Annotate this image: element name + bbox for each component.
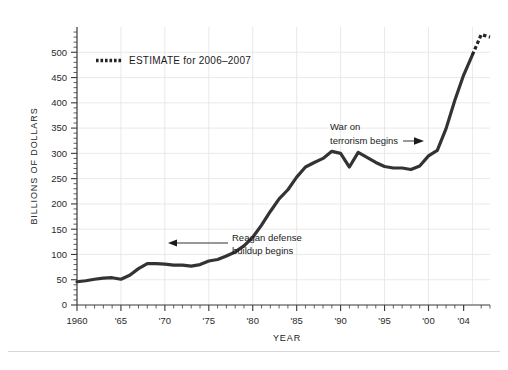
legend: ESTIMATE for 2006–2007: [96, 55, 251, 66]
y-tick-label: 450: [51, 72, 67, 83]
y-tick-label: 100: [51, 249, 67, 260]
war-arrowhead-icon: [414, 137, 424, 145]
x-tick-label: '70: [159, 315, 171, 326]
x-tick-label: '04: [457, 315, 469, 326]
y-axis-major-ticks: [71, 52, 77, 305]
footer-divider: [8, 351, 500, 352]
x-tick-label: '65: [115, 315, 127, 326]
defense-spending-chart-figure: 050100150200250300350400450500 1960'65'7…: [0, 0, 508, 370]
annotation-war-on-terrorism: War on terrorism begins: [330, 121, 424, 146]
y-tick-label: 0: [62, 299, 67, 310]
x-tick-label: '90: [334, 315, 346, 326]
y-axis-title: BILLIONS OF DOLLARS: [29, 107, 39, 224]
y-tick-label: 200: [51, 198, 67, 209]
estimate-dotted-line: [472, 35, 490, 55]
y-tick-label: 150: [51, 224, 67, 235]
y-tick-label: 500: [51, 47, 67, 58]
y-tick-label: 300: [51, 148, 67, 159]
x-tick-label: 1960: [66, 315, 87, 326]
y-tick-label: 250: [51, 173, 67, 184]
reagan-annotation-line1: Reagan defense: [232, 232, 302, 243]
x-tick-label: '95: [378, 315, 390, 326]
x-tick-label: '00: [422, 315, 434, 326]
x-tick-label: '80: [247, 315, 259, 326]
legend-label-estimate: ESTIMATE for 2006–2007: [129, 55, 251, 66]
war-annotation-line1: War on: [330, 121, 360, 132]
war-annotation-line2: terrorism begins: [330, 135, 398, 146]
y-tick-label: 350: [51, 122, 67, 133]
annotation-reagan-defense-buildup: Reagan defense buildup begins: [168, 232, 302, 256]
x-axis-title: YEAR: [273, 333, 301, 343]
chart-canvas: 050100150200250300350400450500 1960'65'7…: [0, 0, 508, 370]
y-axis-tick-labels: 050100150200250300350400450500: [51, 47, 67, 311]
y-tick-label: 50: [56, 274, 67, 285]
x-tick-label: '85: [290, 315, 302, 326]
reagan-annotation-line2: buildup begins: [232, 245, 294, 256]
reagan-arrowhead-icon: [168, 239, 177, 246]
x-axis-tick-labels: 1960'65'70'75'80'85'90'95'00'04: [66, 315, 469, 326]
y-tick-label: 400: [51, 97, 67, 108]
x-tick-label: '75: [203, 315, 215, 326]
